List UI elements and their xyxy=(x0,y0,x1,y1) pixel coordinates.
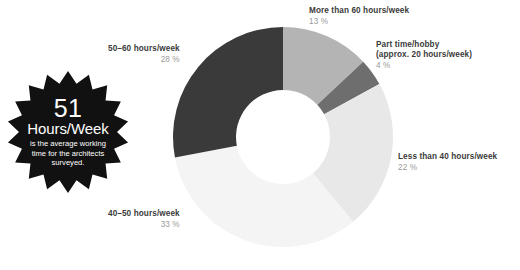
infographic-canvas: 51 Hours/Week is the average working tim… xyxy=(0,0,520,270)
slice-label-part-time: Part time/hobby (approx. 20 hours/week) … xyxy=(376,40,472,71)
slice-value-text: 4 % xyxy=(376,61,472,71)
slice-label-text: More than 60 hours/week xyxy=(309,6,409,16)
slice-label-text: Less than 40 hours/week xyxy=(398,152,497,162)
slice-label-less-than-40: Less than 40 hours/week 22 % xyxy=(398,152,497,173)
slice-label-text: 40–50 hours/week xyxy=(108,209,180,219)
slice-label-text-line1: Part time/hobby xyxy=(376,40,472,50)
starburst-icon xyxy=(6,70,130,194)
slice-value-text: 33 % xyxy=(108,220,180,230)
slice-label-text-line2: (approx. 20 hours/week) xyxy=(376,50,472,60)
slice-label-40-50: 40–50 hours/week 33 % xyxy=(108,209,180,230)
slice-value-text: 28 % xyxy=(108,55,180,65)
starburst-shape xyxy=(8,71,128,193)
slice-label-more-than-60: More than 60 hours/week 13 % xyxy=(309,6,409,27)
slice-value-text: 22 % xyxy=(398,163,497,173)
donut-slice[interactable] xyxy=(173,27,283,158)
average-hours-badge: 51 Hours/Week is the average working tim… xyxy=(6,70,130,194)
slice-label-text: 50–60 hours/week xyxy=(108,44,180,54)
slice-value-text: 13 % xyxy=(309,17,409,27)
slice-label-50-60: 50–60 hours/week 28 % xyxy=(108,44,180,65)
